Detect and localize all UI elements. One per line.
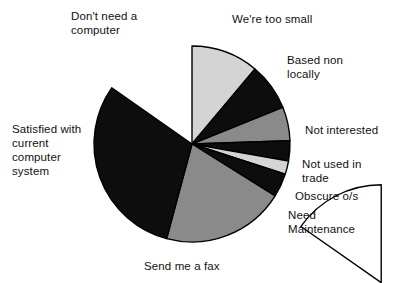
pie-label-dont-need-a-computer: Don't need a computer [71,9,181,37]
pie-chart: Don't need a computer We're too small Ba… [0,0,395,283]
pie-label-send-me-a-fax: Send me a fax [144,259,264,273]
pie-label-satisfied-with-current-computer-system: Satisfied with current computer system [12,122,104,178]
pie-label-not-interested: Not interested [305,123,395,137]
pie-label-not-used-in-trade: Not used in trade [302,157,394,185]
pie-label-were-too-small: We're too small [232,12,352,26]
pie-label-obscure-os: Obscure o/s [295,189,393,203]
pie-label-based-non-locally: Based non locally [287,53,387,81]
pie-label-need-maintenance: Need Maintenance [288,208,393,236]
